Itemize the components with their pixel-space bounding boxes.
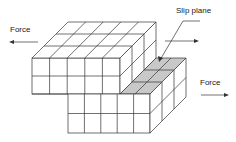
lower-block-front — [32, 94, 150, 133]
upper-block-front — [32, 58, 120, 94]
force-arrow-left — [9, 40, 38, 44]
force-right-label: Force — [200, 78, 220, 87]
slip-plane-leader — [158, 21, 200, 62]
force-arrow-right — [201, 93, 229, 97]
slip-diagram — [0, 0, 236, 142]
slip-plane-label: Slip plane — [176, 6, 211, 15]
force-left-label: Force — [10, 25, 30, 34]
